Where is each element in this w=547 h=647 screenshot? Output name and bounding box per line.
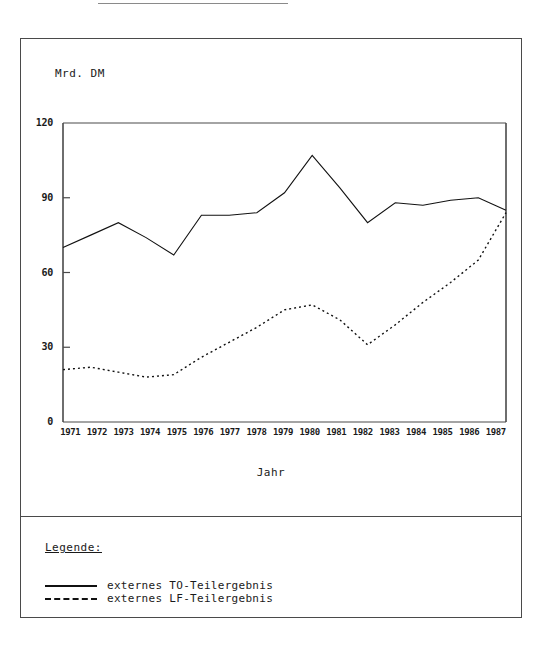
legend-label: externes LF-Teilergebnis bbox=[107, 592, 273, 605]
x-axis-tick-label: 1983 bbox=[376, 427, 403, 437]
x-axis-tick-label: 1977 bbox=[217, 427, 244, 437]
x-axis-tick-label: 1972 bbox=[84, 427, 111, 437]
series-line bbox=[63, 213, 506, 377]
y-axis-tick-label: 30 bbox=[27, 341, 53, 352]
top-heading-rule bbox=[98, 3, 288, 4]
legend-label: externes TO-Teilergebnis bbox=[107, 579, 273, 592]
figure-frame: Mrd. DM 0306090120 197119721973197419751… bbox=[20, 38, 522, 618]
x-axis-tick-label: 1974 bbox=[137, 427, 164, 437]
legend-panel: Legende: externes TO-Teilergebnisexterne… bbox=[21, 517, 521, 617]
x-axis-tick-label: 1987 bbox=[483, 427, 510, 437]
series-line bbox=[63, 155, 506, 255]
x-axis-tick-label: 1975 bbox=[163, 427, 190, 437]
x-axis-tick-label: 1980 bbox=[296, 427, 323, 437]
legend-title: Legende: bbox=[45, 541, 102, 554]
plot-series bbox=[63, 155, 506, 377]
legend-items: externes TO-Teilergebnisexternes LF-Teil… bbox=[45, 579, 273, 605]
x-axis-tick-label: 1984 bbox=[403, 427, 430, 437]
x-axis-tick-labels: 1971197219731974197519761977197819791980… bbox=[57, 427, 509, 437]
y-axis-tick-label: 90 bbox=[27, 192, 53, 203]
dashed-line-icon bbox=[45, 594, 97, 604]
plot-axes bbox=[63, 123, 506, 422]
x-axis-tick-label: 1985 bbox=[429, 427, 456, 437]
chart-panel: Mrd. DM 0306090120 197119721973197419751… bbox=[21, 39, 521, 517]
x-axis-tick-label: 1986 bbox=[456, 427, 483, 437]
y-axis-tick-label: 0 bbox=[27, 416, 53, 427]
y-axis-tick-label: 120 bbox=[27, 117, 53, 128]
x-axis-tick-label: 1982 bbox=[350, 427, 377, 437]
solid-line-icon bbox=[45, 581, 97, 591]
x-axis-tick-label: 1978 bbox=[243, 427, 270, 437]
x-axis-tick-label: 1976 bbox=[190, 427, 217, 437]
x-axis-tick-label: 1981 bbox=[323, 427, 350, 437]
x-axis-tick-label: 1979 bbox=[270, 427, 297, 437]
x-axis-title: Jahr bbox=[21, 466, 521, 479]
line-chart-plot bbox=[21, 39, 521, 517]
x-axis-tick-label: 1971 bbox=[57, 427, 84, 437]
legend-row: externes LF-Teilergebnis bbox=[45, 592, 273, 605]
legend-row: externes TO-Teilergebnis bbox=[45, 579, 273, 592]
x-axis-tick-label: 1973 bbox=[110, 427, 137, 437]
y-axis-tick-label: 60 bbox=[27, 267, 53, 278]
